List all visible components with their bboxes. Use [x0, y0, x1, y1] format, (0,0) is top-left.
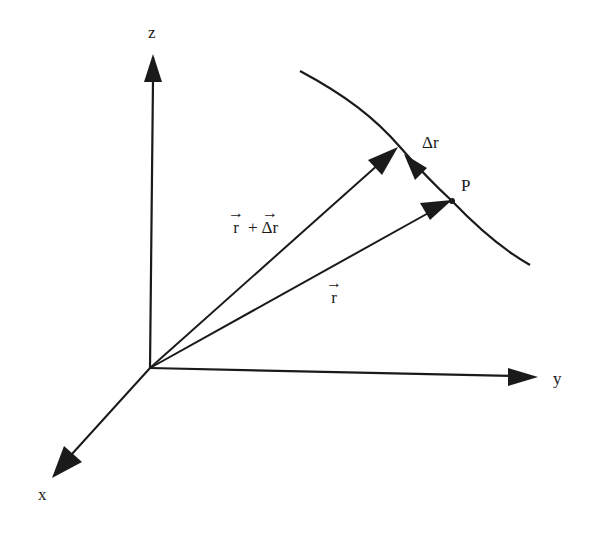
plus-operator: + [248, 208, 258, 238]
z-axis-label: z [148, 24, 156, 41]
x-axis-arrowhead-icon [52, 446, 82, 478]
vector-arrow-icon: → [228, 208, 244, 218]
point-p-label: P [461, 177, 470, 194]
y-axis [150, 368, 538, 386]
z-axis [144, 54, 162, 368]
vector-r-plus-delta-r [150, 147, 398, 368]
vector-r [150, 200, 452, 368]
y-axis-label: y [553, 370, 562, 387]
y-axis-arrowhead-icon [508, 368, 538, 386]
point-p-marker [449, 198, 455, 204]
vector-r-plus-delta-r-label: → r + → Δr [228, 208, 278, 238]
delta-r-arrowhead-icon [404, 154, 427, 180]
vector-r-label: → r [326, 278, 342, 308]
diagram-drawing [0, 0, 597, 534]
x-axis [52, 368, 150, 478]
delta-r-term: → Δr [262, 208, 279, 238]
vector-arrow-icon: → [326, 278, 342, 288]
vector-diagram: z y x P Δr → r + → Δr → r [0, 0, 597, 534]
vector-r-arrowhead-icon [420, 200, 452, 220]
r-term: → r [326, 278, 342, 308]
z-axis-arrowhead-icon [144, 54, 162, 82]
delta-r-label: Δr [422, 134, 439, 151]
x-axis-label: x [38, 486, 47, 503]
vector-arrow-icon: → [262, 208, 279, 218]
r-term: → r [228, 208, 244, 238]
